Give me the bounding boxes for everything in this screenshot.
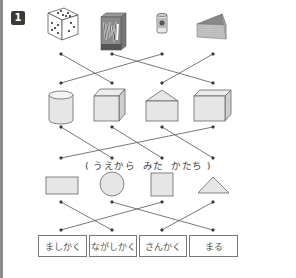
caption-close-paren: ) xyxy=(207,160,211,171)
connection-lines-solids-to-shapes xyxy=(60,126,215,160)
square-icon xyxy=(151,173,173,196)
house-prism-icon xyxy=(146,90,178,121)
caption-open-paren: ( xyxy=(85,160,89,171)
dice-icon xyxy=(48,8,78,40)
caption-word-mita: みた xyxy=(143,160,164,171)
name-box-mashikaku: ましかく xyxy=(38,235,87,257)
name-box-nagashikaku: ながしかく xyxy=(89,235,137,257)
triangular-prism-icon xyxy=(197,14,226,39)
top-view-caption: (うえから みた かたち) xyxy=(0,158,296,172)
tissue-box-icon xyxy=(101,13,126,50)
can-icon xyxy=(157,13,167,33)
connection-lines-objects-to-solids xyxy=(60,53,215,85)
circle-icon xyxy=(100,172,124,196)
cube-icon xyxy=(94,89,125,121)
caption-word-katachi: かたち xyxy=(171,160,203,171)
name-box-sankaku: さんかく xyxy=(139,235,187,257)
connection-lines-shapes-to-names xyxy=(60,201,215,232)
caption-word-uekara: うえから xyxy=(93,160,135,171)
cylinder-icon xyxy=(49,91,73,124)
rectangle-icon xyxy=(46,177,78,194)
name-box-maru: まる xyxy=(189,235,238,257)
triangle-icon xyxy=(198,177,229,193)
cuboid-icon xyxy=(194,90,231,121)
